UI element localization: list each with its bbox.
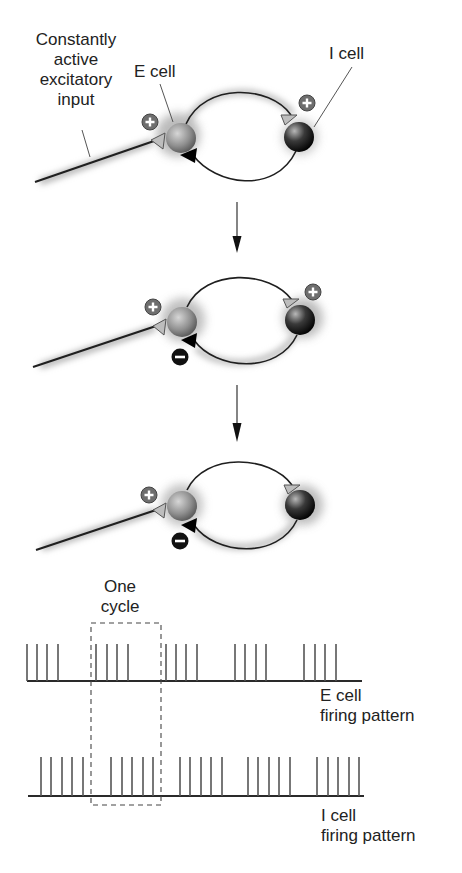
excitatory-input-axon	[36, 510, 156, 550]
i-cell	[284, 122, 314, 152]
panel-3	[36, 462, 323, 550]
plus-icon	[305, 284, 321, 300]
e-to-i-axon	[187, 462, 292, 490]
excitatory-input-axon	[35, 141, 154, 182]
input-label: Constantly active excitatory input	[22, 30, 130, 110]
e-cell	[167, 491, 197, 521]
minus-icon	[172, 533, 189, 550]
down-arrow-icon	[233, 202, 242, 253]
minus-icon	[172, 349, 189, 366]
e-cell-label: E cell	[134, 62, 176, 82]
plus-icon	[141, 487, 157, 503]
down-arrow-icon	[233, 385, 242, 442]
e-i-loop-diagram	[0, 0, 462, 873]
plus-icon	[142, 114, 158, 130]
e-cell	[166, 123, 196, 153]
plus-icon	[299, 95, 315, 111]
excitatory-synapse-icon	[153, 503, 166, 518]
i-cell	[285, 490, 315, 520]
e-firing-pattern-label: E cell firing pattern	[320, 686, 415, 726]
e-to-i-axon	[187, 278, 292, 307]
panel-2	[33, 278, 323, 367]
i-cell-label: I cell	[329, 44, 364, 64]
excitatory-synapse-icon	[153, 319, 166, 335]
i-firing-pattern-label: I cell firing pattern	[321, 806, 416, 846]
i-cell-firing-trace	[28, 757, 364, 796]
e-cell-firing-trace	[27, 644, 362, 681]
one-cycle-dashed-box	[91, 623, 161, 805]
one-cycle-label: One cycle	[90, 577, 150, 617]
plus-icon	[145, 299, 161, 315]
e-cell	[167, 307, 197, 337]
excitatory-input-axon	[33, 326, 156, 367]
i-to-e-axon	[193, 151, 296, 181]
i-cell	[285, 305, 315, 335]
